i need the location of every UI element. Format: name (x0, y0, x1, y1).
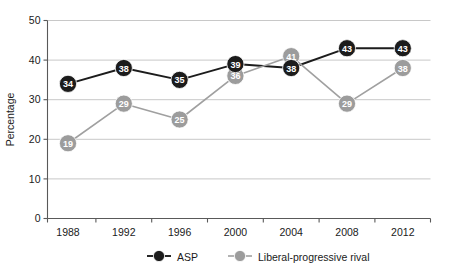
chart-container: 01020304050 1988199219962000200420082012… (0, 0, 450, 268)
data-point: 29 (338, 95, 355, 112)
data-label: 35 (175, 75, 185, 85)
data-point: 25 (171, 111, 188, 128)
data-label: 38 (398, 64, 408, 74)
legend-item[interactable]: ASP (147, 250, 198, 262)
data-label: 29 (119, 99, 129, 109)
data-label: 43 (398, 44, 408, 54)
legend-label: ASP (177, 251, 198, 263)
x-tick-label: 1996 (168, 226, 192, 238)
legend-marker (234, 250, 245, 261)
x-axis: 1988199219962000200420082012 (48, 219, 431, 238)
data-label: 25 (175, 115, 185, 125)
data-label: 39 (230, 60, 240, 70)
line-chart: 01020304050 1988199219962000200420082012… (0, 0, 450, 268)
legend-item[interactable]: Liberal-progressive rival (228, 250, 369, 262)
y-tick-label: 10 (29, 173, 41, 185)
data-label: 38 (119, 64, 129, 74)
y-axis-title: Percentage (4, 92, 16, 146)
y-tick-label: 20 (29, 133, 41, 145)
gridlines (48, 21, 431, 179)
data-point: 29 (115, 95, 132, 112)
data-point: 19 (59, 135, 76, 152)
y-axis-title-group: Percentage (4, 92, 16, 146)
data-label: 19 (63, 139, 73, 149)
data-label: 38 (286, 64, 296, 74)
data-point: 34 (59, 75, 76, 92)
data-label: 29 (342, 99, 352, 109)
data-point: 43 (394, 40, 411, 57)
x-tick-label: 2000 (224, 226, 248, 238)
data-point: 43 (338, 40, 355, 57)
chart-legend: ASPLiberal-progressive rival (147, 250, 369, 262)
y-axis: 01020304050 (29, 14, 48, 224)
x-tick-label: 2004 (280, 226, 304, 238)
x-tick-label: 1992 (112, 226, 136, 238)
data-point: 38 (115, 59, 132, 76)
legend-label: Liberal-progressive rival (258, 251, 369, 263)
y-tick-label: 50 (29, 14, 41, 26)
x-tick-label: 2012 (391, 226, 415, 238)
y-tick-label: 30 (29, 93, 41, 105)
data-point: 39 (227, 55, 244, 72)
data-point: 38 (283, 59, 300, 76)
data-label: 34 (63, 79, 73, 89)
y-tick-label: 40 (29, 54, 41, 66)
x-tick-label: 1988 (56, 226, 80, 238)
data-point: 35 (171, 71, 188, 88)
x-tick-label: 2008 (335, 226, 359, 238)
data-label: 43 (342, 44, 352, 54)
data-point: 38 (394, 59, 411, 76)
legend-marker (153, 250, 164, 261)
y-tick-label: 0 (35, 212, 41, 224)
